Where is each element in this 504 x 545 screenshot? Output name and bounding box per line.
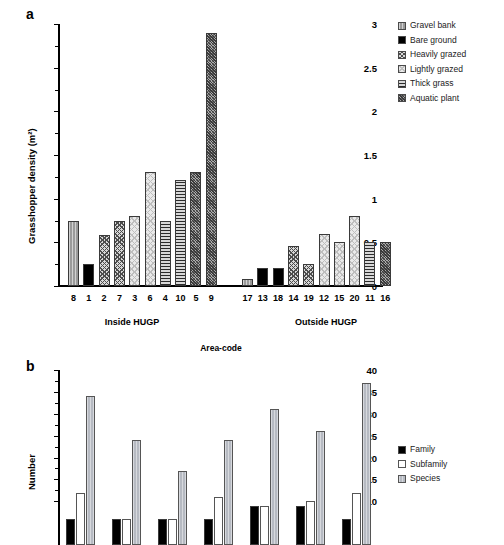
panel-b-legend-label: Species (410, 474, 440, 483)
panel-b-bar (306, 501, 315, 545)
panel-a-x-tick-label: 14 (288, 293, 298, 303)
panel-a-y-minor-tick (55, 46, 58, 47)
panel-b-bar (204, 519, 213, 545)
panel-a-x-tick-label: 8 (71, 293, 76, 303)
panel-b: b Number 10152025303540 FamilySubfamilyS… (0, 350, 504, 530)
panel-a-y-tick (54, 242, 58, 243)
panel-b-bar (158, 519, 167, 545)
panel-a-legend-label: Thick grass (410, 79, 453, 88)
panel-a-legend-swatch-icon (398, 80, 406, 88)
panel-a-legend-item: Heavily grazed (398, 49, 466, 60)
panel-b-bar (86, 396, 95, 545)
panel-a-bar (257, 268, 268, 286)
panel-b-y-minor-tick (55, 447, 58, 448)
panel-a-x-tick-label: 16 (380, 293, 390, 303)
panel-b-bar (224, 440, 233, 545)
panel-b-y-tick (54, 370, 58, 371)
panel-a-x-tick-label: 15 (334, 293, 344, 303)
panel-a-bar (190, 172, 201, 286)
panel-a-legend-swatch-icon (398, 36, 406, 44)
panel-b-y-tick (54, 414, 58, 415)
panel-a-y-tick (54, 111, 58, 112)
panel-a-legend-swatch-icon (398, 65, 406, 73)
panel-a-y-minor-tick (55, 133, 58, 134)
panel-a-bar (303, 264, 314, 286)
panel-a-legend-swatch-icon (398, 94, 406, 102)
panel-b-bar (352, 493, 361, 545)
panel-b-legend-swatch-icon (398, 460, 406, 468)
panel-a-legend-label: Heavily grazed (410, 50, 466, 59)
panel-a-y-tick (54, 155, 58, 156)
panel-a-bar (273, 268, 284, 286)
panel-a-y-tick-label: 1 (372, 193, 377, 204)
panel-b-legend: FamilySubfamilySpecies (398, 444, 447, 488)
panel-b-legend-item: Subfamily (398, 459, 447, 470)
panel-b-y-axis (58, 370, 60, 545)
panel-a-y-minor-tick (55, 90, 58, 91)
panel-b-bar (76, 493, 85, 545)
panel-b-legend-item: Family (398, 444, 447, 455)
panel-b-legend-swatch-icon (398, 475, 406, 483)
panel-a-x-tick-label: 9 (209, 293, 214, 303)
panel-a-bar (380, 242, 391, 286)
panel-b-bar (66, 519, 75, 545)
panel-a-legend-swatch-icon (398, 51, 406, 59)
panel-b-bar (178, 471, 187, 545)
panel-a-y-axis (58, 24, 60, 286)
panel-a-bar (349, 216, 360, 286)
panel-a-y-axis-label: Grasshopper density (m²) (26, 128, 37, 244)
panel-a-y-tick (54, 199, 58, 200)
panel-a-bar (288, 246, 299, 286)
panel-b-plot-area: 10152025303540 (58, 370, 383, 545)
panel-b-y-minor-tick (55, 490, 58, 491)
panel-a-legend-item: Lightly grazed (398, 64, 466, 75)
panel-a-x-tick-label: 1 (86, 293, 91, 303)
panel-a-bar (83, 264, 94, 286)
panel-b-bar (342, 519, 351, 545)
panel-a-legend-label: Bare ground (410, 36, 457, 45)
panel-a-x-tick-label: 11 (365, 293, 375, 303)
panel-a-y-tick-label: 3 (372, 19, 377, 30)
panel-a-legend-item: Bare ground (398, 35, 466, 46)
panel-a-legend-label: Gravel bank (410, 21, 456, 30)
panel-a-x-tick-label: 12 (319, 293, 329, 303)
panel-a-bar (334, 242, 345, 286)
panel-a-y-tick (54, 68, 58, 69)
panel-a-bar (160, 221, 171, 287)
panel-a-x-tick-label: 7 (117, 293, 122, 303)
panel-a-bar (319, 234, 330, 286)
panel-a-legend-item: Thick grass (398, 78, 466, 89)
panel-a-x-tick-label: 2 (102, 293, 107, 303)
panel-b-y-minor-tick (55, 425, 58, 426)
panel-b-y-tick-label: 40 (366, 365, 377, 376)
panel-a-bar (175, 180, 186, 286)
panel-b-bar (296, 506, 305, 545)
panel-a: a Grasshopper density (m²) 00.511.522.53… (0, 0, 504, 350)
panel-a-legend-item: Aquatic plant (398, 93, 466, 104)
panel-a-legend-item: Gravel bank (398, 20, 466, 31)
panel-a-bar (242, 279, 253, 286)
panel-b-y-axis-label: Number (26, 454, 37, 490)
panel-b-bar (260, 506, 269, 545)
panel-a-bar (206, 33, 217, 286)
panel-a-y-minor-tick (55, 221, 58, 222)
panel-b-y-tick (54, 436, 58, 437)
panel-a-x-tick-label: 20 (350, 293, 360, 303)
panel-a-x-tick-label: 17 (242, 293, 252, 303)
panel-b-bar (112, 519, 121, 545)
panel-a-bar (114, 221, 125, 287)
panel-a-y-tick-label: 2.5 (364, 62, 377, 73)
panel-a-bar (99, 235, 110, 286)
panel-a-legend: Gravel bankBare groundHeavily grazedLigh… (398, 20, 466, 107)
panel-a-y-tick (54, 24, 58, 25)
panel-b-bar (168, 519, 177, 545)
panel-a-x-tick-label: 3 (132, 293, 137, 303)
panel-a-bar (364, 242, 375, 286)
panel-a-bar (145, 172, 156, 286)
panel-a-letter: a (26, 6, 34, 22)
panel-b-legend-item: Species (398, 473, 447, 484)
panel-b-bar (132, 440, 141, 545)
panel-a-group-label-outside: Outside HUGP (295, 317, 357, 327)
panel-a-y-minor-tick (55, 264, 58, 265)
panel-a-legend-label: Aquatic plant (410, 94, 459, 103)
